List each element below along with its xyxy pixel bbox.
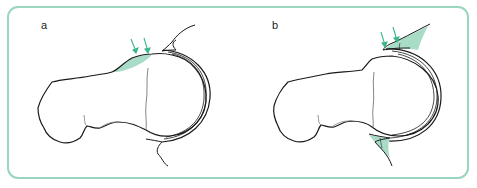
lower-rim-a xyxy=(146,139,168,166)
panel-b xyxy=(274,24,441,166)
acetabulum-inner-b xyxy=(392,54,434,135)
physeal-scar-b xyxy=(373,72,374,128)
upper-rim-a xyxy=(162,25,195,51)
acetabulum-mid-a xyxy=(164,52,206,139)
acetabulum-outer-a xyxy=(162,50,210,142)
pincer-lesion-upper-highlight xyxy=(384,26,428,50)
acetabulum-inner-a xyxy=(166,54,204,137)
arrow-icon xyxy=(131,38,150,53)
panel-a xyxy=(38,25,210,166)
femur-outline-b xyxy=(274,56,438,142)
physeal-scar-a xyxy=(146,68,148,130)
trochanter-line-a xyxy=(84,115,87,126)
acetabulum-mid-b xyxy=(390,51,437,138)
trochanter-line-b xyxy=(318,115,321,125)
hip-diagram xyxy=(0,0,477,188)
cam-lesion-highlight xyxy=(114,54,152,72)
